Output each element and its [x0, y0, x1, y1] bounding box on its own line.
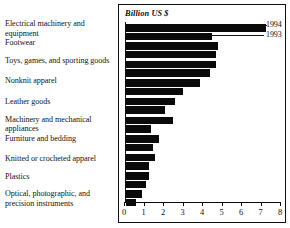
- bar-1994-2: [126, 61, 216, 69]
- x-tick: [124, 203, 125, 206]
- legend-connector-1993: [211, 35, 212, 36]
- legend-leader-line-1993: [211, 35, 264, 36]
- chart-figure: Electrical machinery and equipmentFootwe…: [0, 0, 290, 228]
- bar-1994-7: [126, 154, 155, 162]
- x-tick: [202, 203, 203, 206]
- category-label: Toys, games, and sporting goods: [5, 56, 117, 66]
- bar-1993-7: [126, 162, 149, 170]
- x-tick: [163, 203, 164, 206]
- bar-1993-0: [126, 33, 212, 41]
- bar-1994-8: [126, 172, 149, 180]
- bar-1993-4: [126, 106, 165, 114]
- x-tick-label: 3: [176, 208, 190, 218]
- x-tick-label: 6: [234, 208, 248, 218]
- bar-1994-1: [126, 42, 218, 50]
- category-label: Nonknit apparel: [5, 76, 117, 86]
- category-label: Knitted or crocheted apparel: [5, 154, 117, 164]
- x-tick: [183, 203, 184, 206]
- category-label: Plastics: [5, 172, 117, 182]
- bar-1994-4: [126, 98, 175, 106]
- chart-title: Billion US $: [125, 9, 169, 18]
- x-tick-label: 0: [117, 208, 131, 218]
- x-tick: [241, 203, 242, 206]
- chart-panel: Billion US $: [118, 4, 286, 223]
- bar-1993-1: [126, 51, 216, 59]
- legend-label-1994: 1994: [266, 21, 282, 29]
- legend-label-1993: 1993: [266, 31, 282, 39]
- x-tick-label: 2: [156, 208, 170, 218]
- bar-1993-8: [126, 181, 146, 189]
- category-label: Furniture and bedding: [5, 134, 117, 144]
- x-tick-label: 7: [254, 208, 268, 218]
- bar-1993-6: [126, 144, 153, 152]
- bar-1994-9: [126, 190, 142, 198]
- bar-1993-2: [126, 69, 210, 77]
- x-tick: [144, 203, 145, 206]
- x-tick: [261, 203, 262, 206]
- category-label-column: Electrical machinery and equipmentFootwe…: [0, 0, 118, 228]
- x-tick-label: 5: [215, 208, 229, 218]
- x-tick: [280, 203, 281, 206]
- category-label: Machinery and mechanical appliances: [5, 115, 117, 134]
- bar-1994-0: [126, 24, 266, 32]
- category-label: Electrical machinery and equipment: [5, 19, 117, 38]
- x-tick: [222, 203, 223, 206]
- x-tick-label: 8: [273, 208, 287, 218]
- x-tick-label: 4: [195, 208, 209, 218]
- bar-1993-3: [126, 88, 183, 96]
- category-label: Footwear: [5, 38, 117, 48]
- x-tick-label: 1: [137, 208, 151, 218]
- bar-1994-3: [126, 79, 200, 87]
- bar-1993-5: [126, 125, 151, 133]
- bar-1994-5: [126, 117, 173, 125]
- category-label: Optical, photographic, and precision ins…: [5, 189, 117, 208]
- category-label: Leather goods: [5, 97, 117, 107]
- plot-area: [125, 22, 281, 202]
- bar-1994-6: [126, 135, 159, 143]
